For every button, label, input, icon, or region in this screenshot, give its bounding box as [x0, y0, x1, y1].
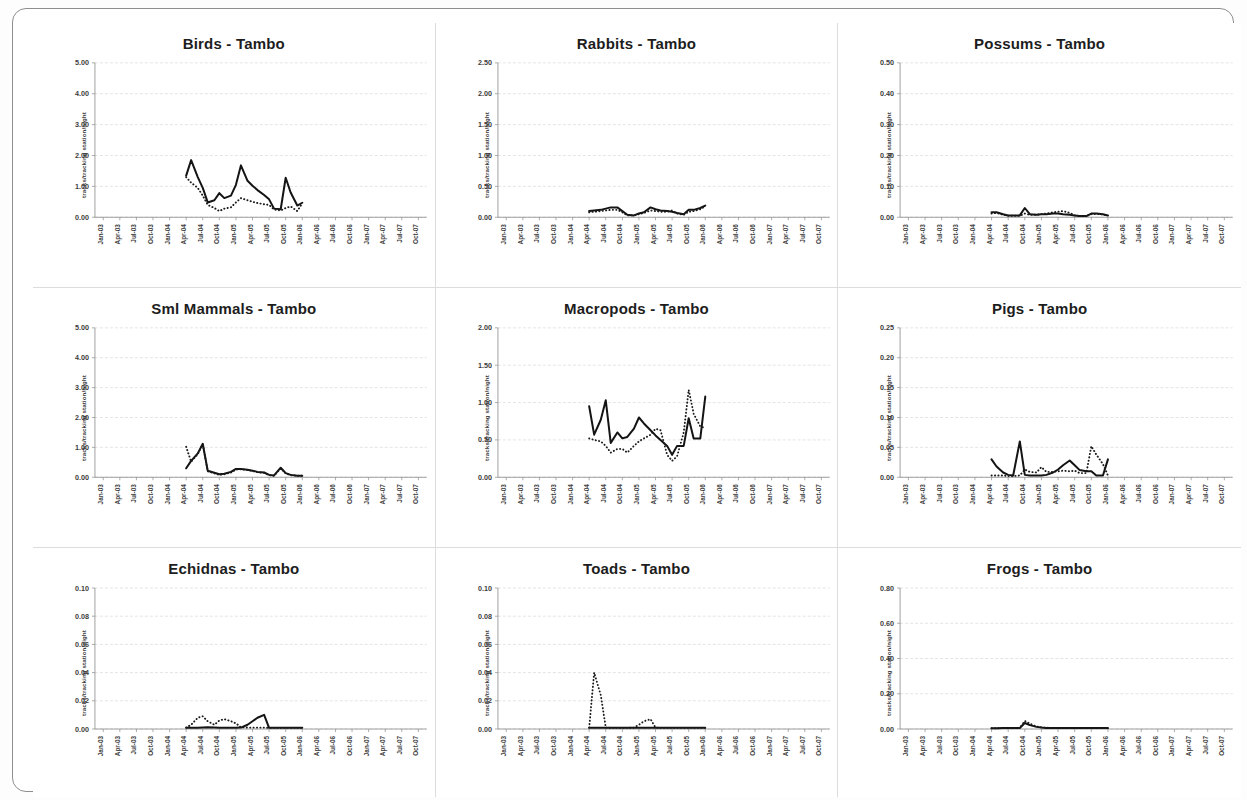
x-tick-label: Jan-06	[296, 224, 303, 245]
x-tick-label: Jul-05	[1069, 736, 1076, 755]
x-tick-label: Apr-04	[583, 736, 591, 757]
series-line-solid	[589, 397, 705, 455]
series-line-solid	[992, 441, 1108, 475]
x-tick-label: Oct-04	[616, 224, 623, 244]
x-tick-label: Apr-05	[1052, 736, 1060, 757]
figure-page: Birds - Tambotracks/tracking station/nig…	[0, 0, 1247, 800]
y-tick-label: 0.15	[880, 383, 894, 392]
x-tick-label: Jan-07	[363, 224, 370, 245]
x-tick-label: Jan-03	[97, 736, 104, 757]
x-tick-label: Jan-05	[633, 224, 640, 245]
y-tick-label: 0.00	[478, 725, 492, 734]
x-tick-label: Apr-04	[986, 484, 994, 505]
y-tick-label: 0.00	[880, 473, 894, 482]
y-tick-label: 5.00	[75, 324, 89, 332]
y-tick-label: 3.00	[75, 121, 89, 129]
x-tick-label: Jul-04	[1003, 736, 1010, 755]
x-tick-label: Jan-04	[164, 484, 171, 505]
y-tick-label: 4.00	[75, 354, 89, 362]
x-tick-label: Apr-03	[919, 224, 927, 245]
x-tick-label: Oct-06	[749, 736, 756, 756]
x-tick-label: Oct-06	[1152, 736, 1159, 756]
plot-area: 0.000.200.400.600.80Jan-03Apr-03Jul-03Oc…	[838, 548, 1241, 797]
x-tick-label: Apr-03	[516, 224, 524, 245]
y-tick-label: 1.00	[478, 152, 492, 160]
x-tick-label: Apr-07	[782, 484, 790, 505]
x-tick-label: Jan-04	[566, 484, 573, 505]
x-tick-label: Apr-05	[649, 736, 657, 757]
x-tick-label: Oct-05	[280, 484, 287, 504]
x-tick-label: Oct-04	[1019, 224, 1026, 244]
y-tick-label: 0.10	[478, 584, 492, 593]
x-tick-label: Jul-06	[329, 224, 336, 243]
x-tick-label: Oct-03	[953, 484, 960, 504]
x-tick-label: Jul-03	[936, 736, 943, 755]
plot-area: 0.000.501.001.502.00Jan-03Apr-03Jul-03Oc…	[436, 288, 838, 547]
y-tick-label: 2.00	[75, 152, 89, 160]
y-tick-label: 0.00	[75, 214, 89, 222]
y-tick-label: 0.20	[880, 151, 894, 160]
x-tick-label: Oct-04	[616, 736, 623, 756]
x-tick-label: Jul-04	[197, 736, 204, 755]
x-tick-label: Jan-04	[969, 736, 976, 757]
y-tick-label: 1.00	[75, 444, 89, 452]
chart-panel: Frogs - Tambotracks/tracking station/nig…	[838, 548, 1241, 797]
x-tick-label: Jan-06	[296, 736, 303, 757]
x-tick-label: Oct-06	[749, 484, 756, 504]
y-tick-label: 0.00	[478, 474, 492, 482]
x-tick-label: Jan-04	[164, 736, 171, 757]
x-tick-label: Apr-06	[313, 736, 321, 757]
x-tick-label: Apr-06	[716, 224, 724, 245]
x-tick-label: Jan-07	[765, 736, 772, 757]
chart-panel: Macropods - Tambotracks/tracking station…	[436, 288, 839, 548]
x-tick-label: Apr-07	[1185, 736, 1193, 757]
plot-area: 0.000.020.040.060.080.10Jan-03Apr-03Jul-…	[436, 548, 838, 797]
x-tick-label: Oct-07	[815, 736, 822, 756]
plot-area: 0.000.020.040.060.080.10Jan-03Apr-03Jul-…	[33, 548, 435, 797]
x-tick-label: Oct-05	[1086, 224, 1093, 244]
x-tick-label: Oct-06	[346, 736, 353, 756]
plot-area: 0.000.100.200.300.400.50Jan-03Apr-03Jul-…	[838, 23, 1241, 287]
series-line-dotted	[589, 673, 705, 728]
x-tick-label: Oct-06	[1152, 224, 1159, 244]
y-tick-label: 0.02	[478, 696, 492, 705]
x-tick-label: Jan-05	[230, 484, 237, 505]
x-tick-label: Apr-03	[114, 736, 122, 757]
x-tick-label: Jul-05	[263, 224, 270, 243]
y-tick-label: 0.60	[880, 619, 894, 628]
x-tick-label: Oct-05	[280, 224, 287, 244]
x-tick-label: Jul-03	[130, 484, 137, 503]
x-tick-label: Jul-07	[1202, 224, 1209, 243]
y-tick-label: 0.20	[880, 689, 894, 698]
chart-panel: Birds - Tambotracks/tracking station/nig…	[33, 23, 436, 288]
x-tick-label: Apr-03	[516, 484, 524, 505]
x-tick-label: Apr-05	[247, 484, 255, 505]
y-tick-label: 0.00	[75, 474, 89, 482]
x-tick-label: Jan-07	[363, 736, 370, 757]
x-tick-label: Jan-03	[903, 736, 910, 757]
x-tick-label: Jan-07	[765, 484, 772, 505]
x-tick-label: Oct-03	[550, 736, 557, 756]
x-tick-label: Jan-03	[903, 224, 910, 245]
x-tick-label: Jan-06	[1102, 224, 1109, 245]
x-tick-label: Jul-03	[533, 224, 540, 243]
x-tick-label: Jul-03	[936, 484, 943, 503]
chart-panel: Rabbits - Tambotracks/tracking station/n…	[436, 23, 839, 288]
x-tick-label: Apr-03	[114, 484, 122, 505]
x-tick-label: Jul-04	[197, 484, 204, 503]
y-tick-label: 0.50	[478, 437, 492, 445]
x-tick-label: Jan-06	[1102, 484, 1109, 505]
x-tick-label: Jul-04	[599, 736, 606, 755]
y-tick-label: 0.00	[75, 725, 89, 734]
x-tick-label: Apr-04	[180, 224, 188, 245]
x-tick-label: Jan-05	[633, 736, 640, 757]
x-tick-label: Jul-04	[599, 224, 606, 243]
x-tick-label: Jul-05	[1069, 484, 1076, 503]
x-tick-label: Jan-05	[1036, 224, 1043, 245]
x-tick-label: Jul-07	[396, 484, 403, 503]
x-tick-label: Apr-05	[247, 736, 255, 757]
x-tick-label: Jan-05	[1036, 484, 1043, 505]
x-tick-label: Jan-07	[765, 224, 772, 245]
x-tick-label: Jan-05	[230, 736, 237, 757]
x-tick-label: Apr-05	[649, 224, 657, 245]
